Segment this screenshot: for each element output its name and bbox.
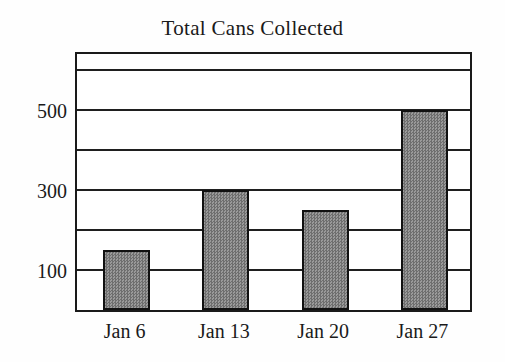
bar-jan-6 xyxy=(103,250,150,310)
x-tick-label: Jan 27 xyxy=(397,318,449,344)
x-tick-label: Jan 6 xyxy=(104,318,146,344)
bar-jan-27 xyxy=(401,110,448,310)
bar-jan-13 xyxy=(202,190,249,310)
chart-title: Total Cans Collected xyxy=(0,16,505,41)
y-tick-label: 100 xyxy=(5,261,67,281)
y-tick-label: 300 xyxy=(5,181,67,201)
bar-jan-20 xyxy=(302,210,349,310)
y-tick-label: 500 xyxy=(5,101,67,121)
plot-area xyxy=(75,52,472,312)
x-tick-label: Jan 13 xyxy=(198,318,250,344)
gridline xyxy=(77,69,470,71)
x-axis: Jan 6Jan 13Jan 20Jan 27 xyxy=(75,318,472,352)
bar-chart-figure: Total Cans Collected 500300100 Jan 6Jan … xyxy=(0,0,505,362)
x-tick-label: Jan 20 xyxy=(297,318,349,344)
